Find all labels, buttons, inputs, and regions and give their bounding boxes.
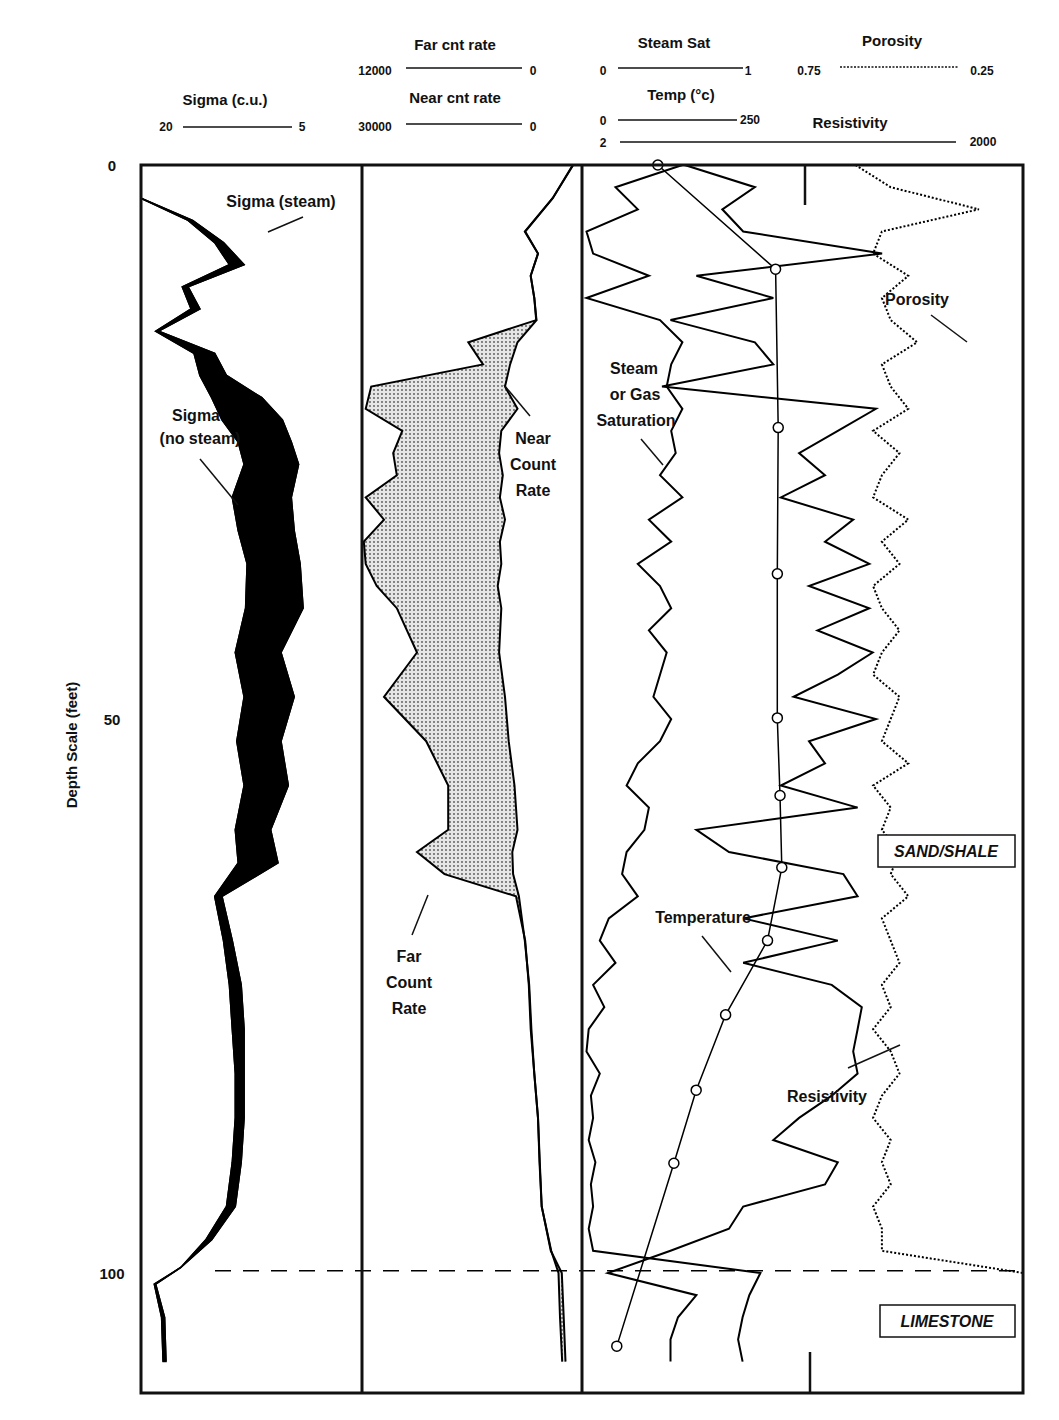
leader-steam: [641, 439, 663, 465]
temperature-point-5: [775, 790, 785, 800]
temperature-point-9: [691, 1085, 701, 1095]
annotation-near-2: Count: [510, 456, 557, 473]
annotation-near-3: Rate: [516, 482, 551, 499]
temperature-point-7: [763, 936, 773, 946]
header-resistivity-left: 2: [600, 136, 607, 150]
annotation-porosity: Porosity: [885, 291, 949, 308]
y-axis-label: Depth Scale (feet): [63, 682, 80, 809]
header-porosity-right: 0.25: [970, 64, 994, 78]
temperature-point-6: [777, 862, 787, 872]
header-near-right: 0: [530, 120, 537, 134]
temperature-point-2: [773, 423, 783, 433]
header-sigma-left: 20: [159, 120, 173, 134]
header-resistivity-label: Resistivity: [812, 114, 888, 131]
annotation-far-2: Count: [386, 974, 433, 991]
annotation-near-1: Near: [515, 430, 551, 447]
annotation-sigma-nosteam-1: Sigma: [172, 407, 220, 424]
annotation-steam-3: Saturation: [596, 412, 675, 429]
annotation-resistivity: Resistivity: [787, 1088, 867, 1105]
temperature-point-3: [772, 569, 782, 579]
header-temp-label: Temp (°c): [647, 86, 714, 103]
leader-porosity: [931, 315, 967, 342]
y-tick-50: 50: [104, 711, 121, 728]
header-steamsat-left: 0: [600, 64, 607, 78]
annotation-steam-1: Steam: [610, 360, 658, 377]
temperature-line: [617, 165, 782, 1346]
annotation-steam-2: or Gas: [610, 386, 661, 403]
header-temp-left: 0: [600, 114, 607, 128]
header-sigma-label: Sigma (c.u.): [182, 91, 267, 108]
leader-far: [412, 895, 428, 935]
well-log-chart: Sigma (c.u.) 20 5 Far cnt rate 12000 0 N…: [0, 0, 1059, 1420]
y-tick-labels: 050100: [99, 157, 124, 1282]
steam-saturation-line: [587, 165, 761, 1362]
sand-shale-label: SAND/SHALE: [894, 843, 999, 860]
header-near-label: Near cnt rate: [409, 89, 501, 106]
annotation-sigma-nosteam-2: (no steam): [160, 430, 241, 447]
y-tick-0: 0: [108, 157, 116, 174]
header-porosity-left: 0.75: [797, 64, 821, 78]
leader-temperature: [702, 936, 731, 972]
y-tick-100: 100: [99, 1265, 124, 1282]
header-sigma-right: 5: [299, 120, 306, 134]
header-porosity-label: Porosity: [862, 32, 923, 49]
resistivity-line: [608, 165, 882, 1362]
annotation-far-1: Far: [397, 948, 422, 965]
header-far-left: 12000: [358, 64, 392, 78]
temperature-point-4: [772, 713, 782, 723]
header-far-right: 0: [530, 64, 537, 78]
header-temp-right: 250: [740, 113, 760, 127]
temperature-point-10: [669, 1158, 679, 1168]
header-far-label: Far cnt rate: [414, 36, 496, 53]
header-resistivity-right: 2000: [970, 135, 997, 149]
annotation-far-3: Rate: [392, 1000, 427, 1017]
annotation-temperature: Temperature: [655, 909, 751, 926]
limestone-label: LIMESTONE: [900, 1313, 994, 1330]
temperature-point-8: [721, 1010, 731, 1020]
leader-sigma-steam: [268, 217, 303, 232]
annotation-sigma-steam: Sigma (steam): [226, 193, 335, 210]
header-near-left: 30000: [358, 120, 392, 134]
header-steamsat-label: Steam Sat: [638, 34, 711, 51]
leader-sigma-nosteam: [200, 459, 238, 505]
count-rate-fill: [364, 165, 573, 1362]
leader-resistivity: [848, 1045, 900, 1068]
temperature-point-1: [771, 264, 781, 274]
porosity-line: [855, 165, 1023, 1362]
header-steamsat-right: 1: [745, 64, 752, 78]
temperature-point-11: [612, 1341, 622, 1351]
sigma-fill: [141, 198, 303, 1361]
